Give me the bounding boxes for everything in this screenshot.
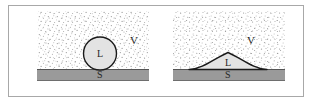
liquid-label-non-wetting: L bbox=[97, 49, 103, 59]
panel-non-wetting: V L S bbox=[29, 6, 154, 98]
solid-label-wetting: S bbox=[225, 70, 231, 80]
figure-root: V L S bbox=[0, 0, 314, 105]
non-wetting-diagram-svg bbox=[29, 6, 154, 98]
liquid-label-wetting: L bbox=[225, 58, 231, 68]
wetting-diagram-svg bbox=[167, 6, 289, 98]
panel-wetting: V L S bbox=[167, 6, 289, 98]
vapor-label-non-wetting: V bbox=[130, 35, 138, 46]
figure-frame: V L S bbox=[8, 5, 304, 97]
solid-substrate bbox=[37, 69, 149, 81]
solid-label-non-wetting: S bbox=[97, 70, 103, 80]
vapor-label-wetting: V bbox=[247, 35, 255, 46]
